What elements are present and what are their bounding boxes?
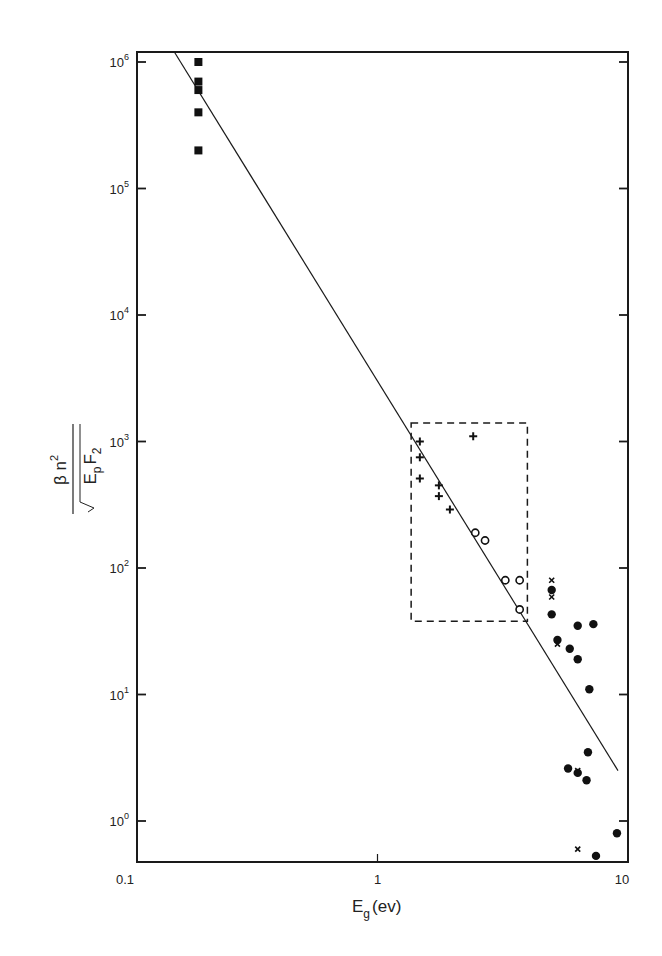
square-marker: [194, 78, 202, 86]
y-tick-label: 101: [110, 685, 129, 703]
filled-circle-marker: [613, 829, 621, 837]
x-axis-label: Eg(ev): [352, 897, 401, 921]
plus-marker: [435, 481, 443, 489]
dashed-region-box: [411, 423, 527, 621]
filled-circle-marker: [547, 610, 555, 618]
y-label-denominator: EpF2: [81, 447, 104, 484]
plus-marker: [416, 474, 424, 482]
cross-marker: [575, 847, 580, 852]
y-label-numerator: β n2: [48, 455, 70, 485]
square-marker: [194, 146, 202, 154]
filled-circle-marker: [564, 764, 572, 772]
chart-canvas: 1001011021031041051060.1110 Eg(ev) β n2 …: [0, 0, 662, 956]
filled-circle-marker: [566, 645, 574, 653]
plus-marker: [435, 492, 443, 500]
series-filled-squares: [194, 58, 202, 154]
square-marker: [194, 58, 202, 66]
filled-circle-marker: [574, 621, 582, 629]
plot-frame: [137, 52, 628, 862]
fit-line: [174, 52, 618, 771]
open-circle-marker: [472, 529, 479, 536]
open-circle-marker: [516, 606, 523, 613]
square-marker: [194, 108, 202, 116]
y-tick-label: 106: [110, 52, 129, 70]
filled-circle-marker: [582, 776, 590, 784]
square-marker: [194, 86, 202, 94]
y-axis-label: β n2 EpF2: [48, 424, 104, 514]
filled-circle-marker: [547, 586, 555, 594]
open-circle-marker: [481, 537, 488, 544]
filled-circle-marker: [584, 748, 592, 756]
axis-ticks: 1001011021031041051060.1110: [110, 52, 630, 887]
y-tick-label: 100: [110, 811, 129, 829]
series-open-circles: [472, 529, 524, 613]
x-tick-label: 0.1: [116, 872, 134, 887]
data-points: [194, 58, 621, 860]
filled-circle-marker: [589, 620, 597, 628]
x-tick-label: 1: [374, 872, 381, 887]
plot-border: [137, 52, 628, 862]
y-tick-label: 105: [110, 179, 129, 197]
x-tick-label: 10: [615, 872, 629, 887]
y-tick-label: 104: [110, 305, 129, 323]
plus-marker: [446, 506, 454, 514]
filled-circle-marker: [553, 636, 561, 644]
cross-marker: [549, 578, 554, 583]
series-filled-circles: [547, 586, 621, 860]
y-tick-label: 103: [110, 432, 129, 450]
series-crosses: [549, 578, 580, 852]
filled-circle-marker: [592, 852, 600, 860]
plus-marker: [469, 432, 477, 440]
series-plus: [416, 432, 477, 513]
open-circle-marker: [516, 577, 523, 584]
dashed-box: [411, 423, 527, 621]
regression-line: [174, 52, 618, 771]
cross-marker: [549, 594, 554, 599]
filled-circle-marker: [585, 685, 593, 693]
filled-circle-marker: [574, 655, 582, 663]
open-circle-marker: [502, 577, 509, 584]
y-tick-label: 102: [110, 558, 129, 576]
